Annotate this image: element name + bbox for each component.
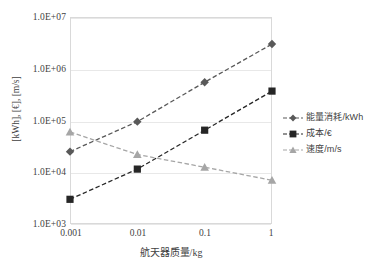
gridline-1e7 bbox=[71, 18, 271, 19]
triangle-marker-icon bbox=[283, 142, 303, 154]
plot-area bbox=[70, 17, 272, 224]
legend-item-speed[interactable]: 速度/m/s bbox=[283, 140, 369, 156]
y-tick-label: 1.0E+07 bbox=[10, 12, 66, 22]
gridline-1e4 bbox=[71, 173, 271, 174]
legend-label: 能量消耗/kWh bbox=[306, 110, 363, 123]
x-tick-label: 0.01 bbox=[113, 228, 163, 238]
legend-label: 成本/€ bbox=[306, 126, 332, 139]
chart-screenshot: 1.0E+07 1.0E+06 1.0E+05 1.0E+04 1.0E+03 … bbox=[0, 0, 369, 271]
legend-item-energy[interactable]: 能量消耗/kWh bbox=[283, 108, 369, 124]
x-tick-label: 0.1 bbox=[180, 228, 230, 238]
gridline-1e6 bbox=[71, 70, 271, 71]
gridline-1e3 bbox=[71, 224, 271, 225]
legend-item-cost[interactable]: 成本/€ bbox=[283, 124, 369, 140]
square-marker-icon bbox=[283, 126, 303, 138]
x-tick-label: 1 bbox=[246, 228, 296, 238]
chart-legend: 能量消耗/kWh 成本/€ 速度/m/s bbox=[283, 108, 369, 156]
x-axis-title: 航天器质量/kg bbox=[70, 244, 272, 259]
y-axis-title: [kWh], [€], [m/s] bbox=[11, 44, 21, 174]
gridline-1e5 bbox=[71, 122, 271, 123]
diamond-marker-icon bbox=[283, 110, 303, 122]
x-tick-label: 0.001 bbox=[46, 228, 96, 238]
legend-label: 速度/m/s bbox=[306, 142, 342, 155]
